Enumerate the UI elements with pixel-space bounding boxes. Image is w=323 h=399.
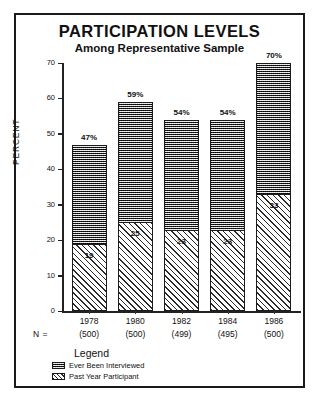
bar-total-value-label: 54% — [202, 108, 253, 117]
bar-total-value-label: 54% — [156, 108, 207, 117]
y-tick-label: 60 — [47, 93, 55, 102]
bar-group: 2559% — [118, 102, 153, 311]
bar-group: 1947% — [72, 145, 107, 312]
x-axis-label-1980: 1980 — [113, 316, 157, 326]
bar-total-value-label: 47% — [64, 133, 115, 142]
dark-checker-swatch — [52, 362, 65, 369]
legend-item: Ever Been Interviewed — [52, 361, 144, 370]
n-value-1980: (500) — [113, 329, 157, 339]
chart-title: PARTICIPATION LEVELS — [16, 22, 303, 41]
x-axis-label-1978: 1978 — [67, 316, 111, 326]
bar-segment-value-label: 23 — [211, 237, 244, 246]
bar-group: 3370% — [256, 63, 291, 311]
y-tick-label: 0 — [51, 306, 55, 315]
bar-segment-past-year-participant: 19 — [72, 244, 107, 311]
legend-item-label: Past Year Participant — [69, 372, 139, 381]
x-tick-mark — [274, 311, 275, 314]
x-tick-mark — [228, 311, 229, 314]
x-tick-mark — [135, 311, 136, 314]
x-axis-label-1984: 1984 — [206, 316, 250, 326]
diagonal-hatch-swatch — [52, 373, 65, 380]
y-tick-label: 10 — [47, 271, 55, 280]
n-value-1978: (500) — [67, 329, 111, 339]
y-tick-label: 70 — [47, 58, 55, 67]
y-axis-title: PERCENT — [11, 119, 21, 165]
bar-segment-value-label: 23 — [165, 237, 198, 246]
bar-segment-past-year-participant: 33 — [256, 194, 291, 311]
n-value-1986: (500) — [252, 329, 296, 339]
bar-total-value-label: 59% — [110, 90, 161, 99]
bar-group: 2354% — [164, 120, 199, 311]
bar-total-value-label: 70% — [248, 51, 299, 60]
n-value-1984: (495) — [206, 329, 250, 339]
x-axis-label-1986: 1986 — [252, 316, 296, 326]
bar-segment-past-year-participant: 23 — [210, 230, 245, 311]
bar-segment-past-year-participant: 23 — [164, 230, 199, 311]
bar-segment-value-label: 33 — [257, 201, 290, 210]
bar-segment-value-label: 19 — [73, 251, 106, 260]
legend-item-label: Ever Been Interviewed — [69, 361, 144, 370]
chart-frame: PARTICIPATION LEVELS Among Representativ… — [14, 13, 305, 388]
y-tick-label: 40 — [47, 164, 55, 173]
bar-segment-value-label: 25 — [119, 229, 152, 238]
legend-items: Ever Been InterviewedPast Year Participa… — [52, 361, 144, 381]
plot-area: 1947%2559%2354%2354%3370% — [62, 63, 293, 311]
chart-legend: Legend Ever Been InterviewedPast Year Pa… — [52, 347, 144, 381]
n-value-1982: (499) — [160, 329, 204, 339]
y-tick-label: 30 — [47, 200, 55, 209]
legend-title: Legend — [74, 347, 144, 359]
x-axis-label-1982: 1982 — [160, 316, 204, 326]
n-equals-label: N = — [33, 329, 48, 339]
bar-group: 2354% — [210, 120, 245, 311]
legend-item: Past Year Participant — [52, 372, 144, 381]
y-tick-label: 20 — [47, 235, 55, 244]
y-tick-label: 50 — [47, 129, 55, 138]
bar-segment-past-year-participant: 25 — [118, 222, 153, 311]
x-tick-mark — [182, 311, 183, 314]
x-tick-mark — [89, 311, 90, 314]
